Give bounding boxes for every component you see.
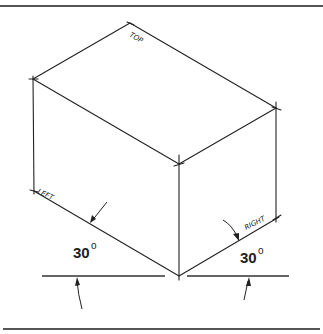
angle-degree-left: o — [91, 240, 97, 251]
angle-label-left: 30 — [73, 244, 90, 261]
arrow-left-lower-icon — [75, 277, 82, 309]
diagram-canvas: TOP LEFT RIGHT 30 o 30 o — [0, 0, 323, 334]
arrow-right-lower-icon — [244, 277, 251, 300]
arrow-right-upper-icon — [223, 220, 239, 241]
top-face — [33, 23, 276, 164]
isometric-diagram: TOP LEFT RIGHT 30 o 30 o — [0, 0, 323, 334]
label-top: TOP — [128, 31, 145, 45]
arrow-left-upper-icon — [90, 202, 107, 223]
angle-label-right: 30 — [240, 249, 257, 266]
label-right: RIGHT — [243, 214, 267, 231]
corner-ticks — [29, 22, 281, 220]
angle-degree-right: o — [258, 245, 264, 256]
label-left: LEFT — [36, 188, 55, 203]
